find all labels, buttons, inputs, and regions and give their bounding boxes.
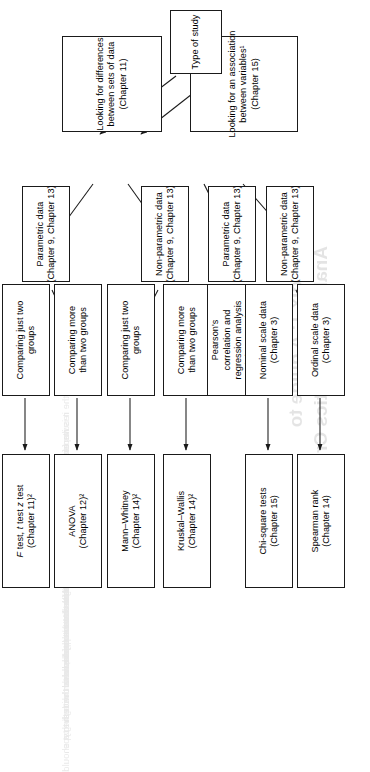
node-par-comparing-more-groups[interactable]: Comparing more than two groups [54,284,102,396]
node-line: Non-parametric data [154,192,165,276]
node-line: (Chapter 15) [269,495,280,547]
node-line: Kruskal–Wallis [176,491,187,551]
node-line: (Chapter 9, Chapter 13) [46,185,57,282]
node-differences-non-parametric-data[interactable]: Non-parametric data (Chapter 9, Chapter … [141,186,189,282]
node-line: correlation and [222,310,233,371]
node-looking-for-differences[interactable]: Looking for differences between sets of … [62,36,162,132]
node-line: (Chapter 14)² [131,494,142,549]
node-association-non-parametric-data[interactable]: Non-parametric data (Chapter 9, Chapter … [266,186,314,282]
node-line: Looking for differences [95,38,106,131]
node-line: between sets of data [106,42,117,127]
node-line: groups [131,326,142,354]
node-line: than two groups [187,307,198,372]
node-line: Chi-square tests [258,488,269,555]
node-differences-parametric-data[interactable]: Parametric data (Chapter 9, Chapter 13) [22,186,70,282]
node-line: Comparing more [176,306,187,374]
node-mann-whitney[interactable]: Mann–Whitney (Chapter 14)² [107,454,155,588]
node-line: between variables¹ [238,45,249,122]
node-line: Comparing just two [15,301,26,380]
node-line: Spearman rank [310,490,321,553]
node-line: Ordinal scale data [310,303,321,377]
node-anova[interactable]: ANOVA (Chapter 12)² [54,454,102,588]
node-line: (Chapter 12)² [78,494,89,549]
node-line: Mann–Whitney [120,490,131,551]
node-nominal-scale-data[interactable]: Nominal scale data (Chapter 3) [245,284,293,396]
node-line: F test, t test z test [15,485,26,558]
node-line: (Chapter 11)² [26,494,37,548]
node-line: Type of study [190,15,201,70]
node-kruskal-wallis[interactable]: Kruskal–Wallis (Chapter 14)² [163,454,211,588]
node-line: groups [26,326,37,354]
node-association-parametric-data[interactable]: Parametric data (Chapter 9, Chapter 13) [208,186,256,282]
node-line: ANOVA [67,505,78,536]
node-line: (Chapter 3) [269,317,280,364]
node-line: (Chapter 9, Chapter 13) [165,185,176,282]
node-ordinal-scale-data[interactable]: Ordinal scale data (Chapter 3) [297,284,345,396]
node-line: Nominal scale data [258,301,269,379]
node-line: than two groups [78,307,89,372]
node-nonpar-comparing-more-groups[interactable]: Comparing more than two groups [163,284,211,396]
node-nonpar-comparing-two-groups[interactable]: Comparing just two groups [107,284,155,396]
node-line: (Chapter 15) [250,58,261,110]
node-line: (Chapter 11) [118,59,129,110]
node-line: (Chapter 14) [321,495,332,547]
node-line: Parametric data [221,202,232,267]
node-line: (Chapter 3) [321,317,332,364]
node-line: Pearson's [210,320,221,361]
node-line: (Chapter 9, Chapter 13) [232,185,243,282]
node-line: regression analysis [233,301,244,380]
node-line: Non-parametric data [279,192,290,276]
node-spearman-rank[interactable]: Spearman rank (Chapter 14) [297,454,345,588]
node-line: Looking for an association [227,31,238,138]
node-f-t-z-test[interactable]: F test, t test z test (Chapter 11)² [2,454,50,588]
node-line: (Chapter 14)² [187,494,198,549]
node-line: (Chapter 9, Chapter 13) [290,185,301,282]
node-par-comparing-two-groups[interactable]: Comparing just two groups [2,284,50,396]
node-line: Comparing just two [120,301,131,380]
node-line: Comparing more [67,306,78,374]
node-chi-square-tests[interactable]: Chi-square tests (Chapter 15) [245,454,293,588]
node-line: Parametric data [35,202,46,267]
node-type-of-study[interactable]: Type of study [170,10,222,74]
